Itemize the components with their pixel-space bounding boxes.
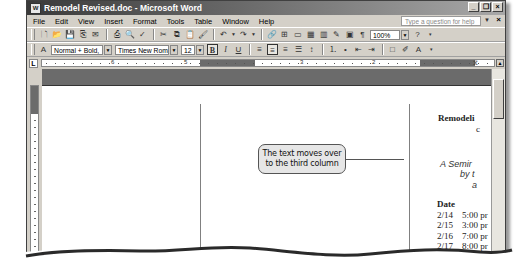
document-map-icon[interactable]: ▣ (344, 29, 355, 40)
menu-edit[interactable]: Edit (55, 17, 68, 26)
ruler-tick (343, 63, 344, 64)
menu-window[interactable]: Window (222, 17, 249, 26)
paste-icon[interactable]: 📋 (184, 29, 195, 40)
bold-button[interactable]: B (207, 44, 218, 55)
new-icon[interactable]: 🗋 (38, 29, 49, 40)
undo-dropdown-icon[interactable]: ▼ (231, 29, 236, 40)
ruler-tick (262, 63, 263, 64)
horizontal-ruler[interactable]: 6 5 3 2 ⧖ (41, 59, 495, 67)
scrollbar-thumb[interactable] (493, 79, 504, 119)
print-preview-icon[interactable]: 🔍 (124, 29, 135, 40)
permission-icon[interactable]: ⎘ (77, 29, 88, 40)
align-right-icon[interactable]: ≡ (280, 44, 291, 55)
italic-button[interactable]: I (220, 44, 231, 55)
ruler-tick (55, 63, 56, 64)
ruler-tick (271, 63, 272, 64)
tab-selector-button[interactable]: L (29, 59, 38, 68)
insert-table-icon[interactable]: ▭ (292, 29, 303, 40)
vertical-ruler-margin (31, 86, 38, 114)
close-button[interactable]: × (492, 2, 503, 12)
borders-icon[interactable]: □ (387, 44, 398, 55)
increase-indent-icon[interactable]: ⇥ (366, 44, 377, 55)
schedule-row: 2/153:00 pr (437, 220, 488, 231)
toolbar-options-icon[interactable]: ▾ (425, 29, 436, 40)
open-icon[interactable]: 📂 (51, 29, 62, 40)
minimize-button[interactable]: _ (468, 2, 479, 12)
schedule-header: Date (437, 199, 488, 210)
scroll-up-button[interactable]: ▲ (496, 59, 504, 67)
help-search-input[interactable]: Type a question for help (401, 16, 481, 26)
line-spacing-icon[interactable]: ↕ (306, 44, 317, 55)
help-dropdown-icon[interactable]: ▼ (484, 17, 490, 23)
ruler-tick (109, 63, 110, 64)
ruler-tick (397, 63, 398, 64)
numbering-icon[interactable]: ⒈ (327, 44, 338, 55)
align-left-icon[interactable]: ≡ (254, 44, 265, 55)
underline-button[interactable]: U (233, 44, 244, 55)
ruler-tick (478, 63, 479, 64)
email-icon[interactable]: ✉ (90, 29, 101, 40)
print-icon[interactable]: ⎙ (111, 29, 122, 40)
styles-formatting-icon[interactable]: A (38, 44, 49, 55)
vertical-ruler-tick (34, 204, 36, 205)
toolbar-grip[interactable] (31, 29, 35, 40)
subtitle-line: by t (460, 169, 475, 179)
ruler-tick (370, 63, 371, 64)
font-dropdown-icon[interactable]: ▼ (170, 45, 178, 55)
center-icon[interactable]: ≡ (267, 44, 278, 55)
save-icon[interactable]: 💾 (64, 29, 75, 40)
format-painter-icon[interactable]: 🖌 (197, 29, 208, 40)
help-icon[interactable]: ? (412, 29, 423, 40)
toolbar-options-icon[interactable]: ▾ (426, 44, 437, 55)
font-color-icon[interactable]: A (413, 44, 424, 55)
restore-button[interactable]: ❐ (480, 2, 491, 12)
vertical-scrollbar[interactable] (491, 69, 505, 261)
drawing-icon[interactable]: ✎ (331, 29, 342, 40)
ruler-column-gap[interactable] (420, 60, 475, 67)
excel-icon[interactable]: ▦ (305, 29, 316, 40)
zoom-dropdown-icon[interactable]: ▼ (401, 30, 409, 40)
vertical-ruler-tick (34, 190, 36, 191)
close-document-button[interactable]: × (496, 15, 501, 24)
hyperlink-icon[interactable]: 🔗 (266, 29, 277, 40)
highlight-icon[interactable]: ✐ (400, 44, 411, 55)
vertical-ruler-tick (34, 183, 36, 184)
copy-icon[interactable]: ⧉ (171, 29, 182, 40)
menu-format[interactable]: Format (133, 17, 157, 26)
spelling-icon[interactable]: ✓ (137, 29, 148, 40)
style-combo[interactable]: Normal + Bold, (51, 45, 103, 55)
columns-icon[interactable]: ▥ (318, 29, 329, 40)
toolbar-separator (249, 44, 251, 55)
vertical-ruler-tick (34, 197, 36, 198)
vertical-ruler-tick (34, 162, 36, 163)
decrease-indent-icon[interactable]: ⇤ (353, 44, 364, 55)
menu-tools[interactable]: Tools (167, 17, 185, 26)
ruler-tick (127, 63, 128, 64)
ruler-tick (451, 63, 452, 64)
ruler-tick (190, 63, 191, 64)
ruler-tick (82, 63, 83, 64)
font-combo[interactable]: Times New Roman (115, 45, 169, 55)
tables-borders-icon[interactable]: ⊞ (279, 29, 290, 40)
font-size-dropdown-icon[interactable]: ▼ (196, 45, 204, 55)
zoom-combo[interactable]: 100% (370, 30, 400, 40)
style-dropdown-icon[interactable]: ▼ (104, 45, 112, 55)
redo-dropdown-icon[interactable]: ▼ (251, 29, 256, 40)
toolbar-grip[interactable] (31, 44, 35, 55)
bullets-icon[interactable]: • (340, 44, 351, 55)
cut-icon[interactable]: ✂ (158, 29, 169, 40)
menu-file[interactable]: File (33, 17, 45, 26)
menu-help[interactable]: Help (259, 17, 274, 26)
show-hide-icon[interactable]: ¶ (357, 29, 368, 40)
font-size-combo[interactable]: 12 (181, 45, 195, 55)
justify-icon[interactable]: ☰ (293, 44, 304, 55)
menu-view[interactable]: View (78, 17, 94, 26)
vertical-ruler-tick (34, 134, 36, 135)
undo-icon[interactable]: ↶ (218, 29, 229, 40)
redo-icon[interactable]: ↷ (238, 29, 249, 40)
menu-table[interactable]: Table (194, 17, 212, 26)
menu-insert[interactable]: Insert (104, 17, 123, 26)
vertical-ruler-tick (34, 169, 36, 170)
word-window: W Remodel Revised.doc - Microsoft Word _… (26, 0, 506, 262)
vertical-ruler[interactable] (30, 85, 39, 261)
